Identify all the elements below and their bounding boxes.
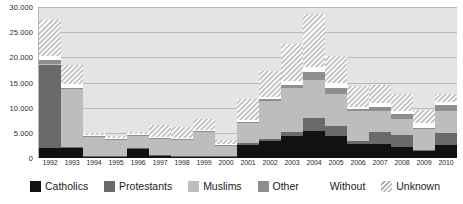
bar-segment-unknown[interactable] [435,94,457,102]
bar-column-2006[interactable] [347,7,369,158]
bar-segment-unknown[interactable] [325,56,347,83]
bar-segment-muslims[interactable] [391,119,413,135]
bar-segment-catholics[interactable] [83,157,105,158]
bar-segment-muslims[interactable] [413,129,435,150]
bar-column-1998[interactable] [171,7,193,158]
x-axis-tick-label: 2005 [325,159,347,171]
bar-segment-muslims[interactable] [83,137,105,156]
bar-column-1992[interactable] [39,7,61,158]
legend-item-other[interactable]: Other [258,180,299,192]
legend-item-without[interactable]: Without [315,180,366,192]
bar-segment-muslims[interactable] [149,139,171,155]
bar-segment-unknown[interactable] [391,94,413,111]
bar-segment-catholics[interactable] [281,136,303,158]
bar-segment-unknown[interactable] [347,86,369,107]
bar-segment-protestants[interactable] [391,135,413,147]
stacked-bar-chart: 30.00025.00020.00015.00010.0005.0000 199… [0,0,463,204]
bar-segment-catholics[interactable] [325,136,347,158]
bar-segment-catholics[interactable] [237,145,259,158]
legend-item-protestants[interactable]: Protestants [104,180,172,192]
bar-segment-other[interactable] [303,72,325,80]
bar-segment-muslims[interactable] [237,123,259,143]
bar-segment-unknown[interactable] [149,125,171,137]
x-axis-tick-label: 2006 [347,159,369,171]
bar-segment-unknown[interactable] [171,127,193,139]
bar-column-1997[interactable] [149,7,171,158]
bar-segment-catholics[interactable] [369,144,391,158]
bar-column-1995[interactable] [105,7,127,158]
bar-segment-muslims[interactable] [105,140,127,156]
bar-column-2005[interactable] [325,7,347,158]
y-axis-tick-label: 5.000 [14,128,33,137]
bar-segment-muslims[interactable] [303,80,325,118]
bar-segment-unknown[interactable] [303,14,325,67]
bar-column-2010[interactable] [435,7,457,158]
bar-segment-muslims[interactable] [281,88,303,132]
y-axis-tick-label: 25.000 [9,28,33,37]
bar-segment-muslims[interactable] [435,111,457,133]
bar-column-2002[interactable] [259,7,281,158]
bar-segment-catholics[interactable] [391,147,413,158]
legend-item-unknown[interactable]: Unknown [381,180,440,192]
bar-column-2004[interactable] [303,7,325,158]
bar-segment-unknown[interactable] [193,119,215,130]
bar-segment-muslims[interactable] [61,89,83,147]
y-axis-tick-label: 10.000 [9,103,33,112]
bar-segment-catholics[interactable] [171,157,193,158]
bar-segment-catholics[interactable] [413,151,435,158]
y-axis: 30.00025.00020.00015.00010.0005.0000 [0,0,36,158]
bar-column-1994[interactable] [83,7,105,158]
bar-segment-muslims[interactable] [259,101,281,139]
bar-segment-unknown[interactable] [259,71,281,97]
legend-swatch-protestants-icon [104,181,115,192]
legend-item-catholics[interactable]: Catholics [30,180,88,192]
bar-segment-catholics[interactable] [347,144,369,158]
bar-segment-unknown[interactable] [281,44,303,81]
bar-column-2007[interactable] [369,7,391,158]
bar-column-1993[interactable] [61,7,83,158]
bar-segment-muslims[interactable] [171,140,193,156]
bar-segment-catholics[interactable] [61,148,83,158]
bar-column-1996[interactable] [127,7,149,158]
bar-column-2001[interactable] [237,7,259,158]
bar-segment-catholics[interactable] [39,148,61,158]
bar-column-1999[interactable] [193,7,215,158]
bar-column-2009[interactable] [413,7,435,158]
bar-segment-catholics[interactable] [149,156,171,158]
legend-swatch-catholics-icon [30,181,41,192]
x-axis-tick-label: 2003 [281,159,303,171]
bar-segment-catholics[interactable] [303,131,325,158]
x-axis-tick-label: 2007 [369,159,391,171]
bar-column-2008[interactable] [391,7,413,158]
bar-segment-muslims[interactable] [325,94,347,127]
bar-segment-unknown[interactable] [39,20,61,57]
bar-column-2000[interactable] [215,7,237,158]
bar-column-2003[interactable] [281,7,303,158]
bar-segment-unknown[interactable] [369,85,391,103]
bar-segment-unknown[interactable] [237,99,259,120]
bar-segment-protestants[interactable] [369,132,391,144]
bar-segment-catholics[interactable] [127,149,149,158]
bar-segment-muslims[interactable] [127,136,149,148]
x-axis-tick-label: 1994 [83,159,105,171]
bar-segment-catholics[interactable] [259,141,281,158]
y-axis-tick-label: 15.000 [9,78,33,87]
bar-segment-protestants[interactable] [303,118,325,131]
x-axis-tick-label: 1996 [127,159,149,171]
chart-legend: CatholicsProtestantsMuslimsOtherWithoutU… [30,178,440,194]
x-axis-tick-label: 1992 [39,159,61,171]
bar-segment-protestants[interactable] [325,126,347,136]
bar-segment-protestants[interactable] [435,133,457,146]
legend-item-muslims[interactable]: Muslims [188,180,242,192]
bar-segment-catholics[interactable] [193,157,215,158]
bar-segment-unknown[interactable] [413,110,435,123]
bar-segment-muslims[interactable] [369,111,391,132]
bar-segment-muslims[interactable] [193,132,215,156]
bar-segment-protestants[interactable] [39,65,61,148]
bar-segment-catholics[interactable] [105,157,127,158]
bar-segment-muslims[interactable] [347,111,369,141]
bar-segment-catholics[interactable] [435,145,457,158]
bar-segment-muslims[interactable] [215,146,237,156]
bar-segment-unknown[interactable] [61,65,83,84]
bar-segment-catholics[interactable] [215,157,237,158]
